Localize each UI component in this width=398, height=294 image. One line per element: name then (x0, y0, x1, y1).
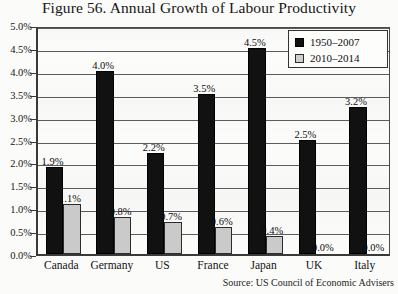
x-axis-label-uk: UK (289, 259, 340, 271)
bar-value-label: 0.4% (256, 226, 289, 236)
y-axis-tick-label: 1.5% (0, 182, 32, 192)
bar-value-label: 1.1% (53, 194, 86, 204)
legend: 1950–2007 2010–2014 (288, 30, 388, 68)
x-axis-label-italy: Italy (339, 259, 390, 271)
bar-germany-recent (114, 217, 131, 254)
bar-value-label: 2.2% (137, 143, 170, 153)
bar-germany-historic (96, 71, 113, 254)
bar-france-recent (215, 227, 232, 254)
y-axis-tick-label: 4.0% (0, 68, 32, 78)
bar-japan-recent (266, 236, 283, 254)
bar-france-historic (198, 94, 215, 254)
bar-value-label: 3.2% (339, 97, 372, 107)
y-axis-tick-label: 0.0% (0, 251, 32, 261)
y-axis-tick-label: 5.0% (0, 22, 32, 32)
x-axis-label-japan: Japan (238, 259, 289, 271)
bar-value-label: 0.0% (357, 243, 390, 253)
bar-japan-historic (248, 48, 265, 254)
bar-uk-historic (299, 140, 316, 255)
bar-value-label: 0.8% (104, 207, 137, 217)
y-axis-tick-label: 2.0% (0, 159, 32, 169)
bar-italy-historic (349, 107, 366, 254)
gridline (38, 74, 389, 75)
bar-value-label: 0.0% (306, 243, 339, 253)
bar-value-label: 0.6% (205, 217, 238, 227)
y-axis-tick-label: 0.5% (0, 228, 32, 238)
figure-container: Figure 56. Annual Growth of Labour Produ… (0, 0, 398, 294)
gridline (38, 28, 389, 29)
page-title: Figure 56. Annual Growth of Labour Produ… (0, 0, 398, 17)
bar-value-label: 4.5% (238, 38, 271, 48)
x-axis-label-france: France (188, 259, 239, 271)
y-axis-tick-label: 4.5% (0, 45, 32, 55)
legend-swatch-icon (295, 38, 304, 47)
legend-item: 2010–2014 (295, 50, 387, 66)
bar-canada-recent (63, 204, 80, 254)
y-axis-tick-label: 3.0% (0, 114, 32, 124)
x-axis-label-us: US (137, 259, 188, 271)
bar-canada-historic (46, 167, 63, 254)
bar-us-historic (147, 153, 164, 254)
bar-value-label: 2.5% (289, 130, 322, 140)
x-axis-label-canada: Canada (36, 259, 87, 271)
source-note: Source: US Council of Economic Advisers (223, 277, 394, 288)
bar-value-label: 3.5% (188, 84, 221, 94)
bar-value-label: 1.9% (36, 157, 69, 167)
legend-swatch-icon (295, 54, 304, 63)
legend-item-label: 1950–2007 (310, 37, 360, 48)
x-axis-label-germany: Germany (87, 259, 138, 271)
y-axis-tick-mark (30, 256, 36, 257)
y-axis-tick-label: 1.0% (0, 205, 32, 215)
y-axis-tick-label: 2.5% (0, 137, 32, 147)
bar-us-recent (164, 222, 181, 254)
bar-value-label: 4.0% (86, 61, 119, 71)
legend-item: 1950–2007 (295, 34, 387, 50)
legend-item-label: 2010–2014 (310, 53, 360, 64)
bar-value-label: 0.7% (154, 212, 187, 222)
y-axis-tick-label: 3.5% (0, 91, 32, 101)
